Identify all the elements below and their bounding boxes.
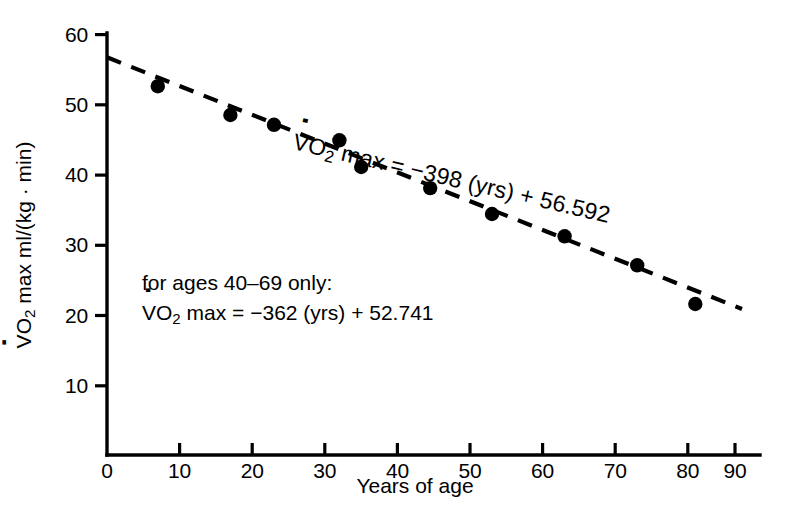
- data-point: [688, 297, 702, 311]
- y-axis-title: VO2 max ml/(kg · min): [12, 142, 38, 349]
- x-tick-label: 70: [604, 459, 627, 483]
- data-point: [223, 108, 237, 122]
- chart-canvas: [0, 0, 801, 525]
- y-tick-label: 50: [65, 93, 88, 117]
- note-subscript-2: 2: [172, 310, 180, 327]
- data-point: [267, 118, 281, 132]
- plot-area: 10 20 30 40 50 60 0 10 20 30 40 50 60 70…: [0, 0, 801, 525]
- y-tick-label: 10: [65, 374, 88, 398]
- note-equation-body: max = −362 (yrs) + 52.741: [181, 301, 434, 324]
- y-axis-ticks: [95, 35, 107, 386]
- data-point: [151, 79, 165, 93]
- annotation-note-block: for ages 40–69 only: VO2 max = −362 (yrs…: [142, 268, 433, 330]
- x-tick-label: 20: [241, 459, 264, 483]
- figure-vo2max-vs-age: 10 20 30 40 50 60 0 10 20 30 40 50 60 70…: [0, 0, 801, 525]
- data-point: [557, 229, 571, 243]
- data-point: [630, 258, 644, 272]
- y-title-subscript-o: O: [12, 318, 35, 334]
- y-title-subscript-2: 2: [21, 310, 38, 318]
- y-tick-label: 60: [65, 23, 88, 47]
- y-tick-label: 30: [65, 233, 88, 257]
- x-tick-label: 10: [168, 459, 191, 483]
- y-title-rest: max ml/(kg · min): [12, 142, 35, 310]
- y-title-vdot-symbol: V: [12, 334, 36, 348]
- x-tick-label: 90: [724, 459, 747, 483]
- x-tick-label: 80: [676, 459, 699, 483]
- y-tick-label: 40: [65, 163, 88, 187]
- x-tick-label: 0: [101, 459, 112, 483]
- x-axis-ticks: [180, 443, 735, 455]
- note-line-equation: VO2 max = −362 (yrs) + 52.741: [142, 298, 433, 330]
- note-line-ages: for ages 40–69 only:: [142, 268, 433, 298]
- x-tick-label: 30: [313, 459, 336, 483]
- note-vdot-symbol: V: [142, 298, 156, 328]
- y-tick-label: 20: [65, 304, 88, 328]
- x-axis-title: Years of age: [356, 474, 473, 498]
- note-subscript-o: O: [156, 301, 172, 324]
- data-point: [485, 207, 499, 221]
- x-tick-label: 60: [531, 459, 554, 483]
